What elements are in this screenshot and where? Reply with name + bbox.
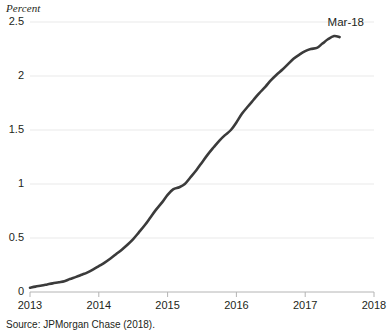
source-note: Source: JPMorgan Chase (2018). <box>6 319 155 330</box>
chart-figure: Percent 00.511.522.5 2013201420152016201… <box>0 0 392 335</box>
y-tick-label: 0.5 <box>2 231 24 243</box>
plot-area <box>0 0 392 335</box>
x-tick-label: 2018 <box>354 299 392 311</box>
y-tick-label: 0 <box>2 285 24 297</box>
endpoint-annotation-mar-18: Mar-18 <box>328 16 364 28</box>
x-tick-label: 2016 <box>216 299 256 311</box>
tick-marks <box>30 292 374 297</box>
y-tick-label: 1.5 <box>2 123 24 135</box>
y-tick-label: 2.5 <box>2 15 24 27</box>
x-tick-label: 2015 <box>148 299 188 311</box>
y-tick-label: 2 <box>2 69 24 81</box>
x-tick-label: 2014 <box>79 299 119 311</box>
data-line <box>30 36 340 288</box>
gridlines <box>30 22 374 238</box>
y-tick-label: 1 <box>2 177 24 189</box>
data-line-group <box>30 36 340 288</box>
x-tick-label: 2017 <box>285 299 325 311</box>
x-tick-label: 2013 <box>10 299 50 311</box>
